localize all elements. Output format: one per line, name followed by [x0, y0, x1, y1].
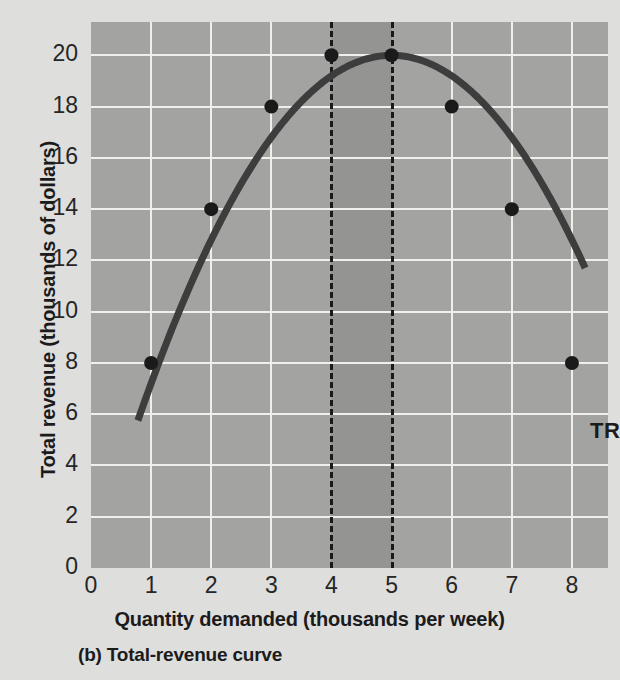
x-tick-6: 6: [432, 572, 472, 599]
x-tick-8: 8: [552, 572, 592, 599]
total-revenue-curve: [91, 22, 608, 568]
y-tick-18: 18: [32, 92, 78, 119]
x-tick-3: 3: [251, 572, 291, 599]
x-tick-1: 1: [131, 572, 171, 599]
y-tick-12: 12: [32, 245, 78, 272]
y-tick-8: 8: [32, 348, 78, 375]
plot-area: TR: [91, 22, 608, 568]
x-tick-5: 5: [372, 572, 412, 599]
data-point: [144, 356, 158, 370]
data-point: [264, 100, 278, 114]
y-tick-14: 14: [32, 194, 78, 221]
data-point: [204, 202, 218, 216]
figure-caption: (b) Total-revenue curve: [78, 644, 282, 666]
y-tick-4: 4: [32, 450, 78, 477]
data-point: [445, 100, 459, 114]
x-axis-label: Quantity demanded (thousands per week): [0, 608, 619, 631]
data-point: [324, 48, 338, 62]
data-point: [505, 202, 519, 216]
x-tick-7: 7: [492, 572, 532, 599]
y-tick-6: 6: [32, 399, 78, 426]
y-tick-16: 16: [32, 143, 78, 170]
series-label-tr: TR: [590, 418, 620, 444]
data-point: [385, 48, 399, 62]
y-tick-2: 2: [32, 502, 78, 529]
y-tick-10: 10: [32, 297, 78, 324]
x-tick-0: 0: [71, 572, 111, 599]
x-tick-2: 2: [191, 572, 231, 599]
y-tick-20: 20: [32, 40, 78, 67]
data-point: [565, 356, 579, 370]
x-tick-4: 4: [311, 572, 351, 599]
